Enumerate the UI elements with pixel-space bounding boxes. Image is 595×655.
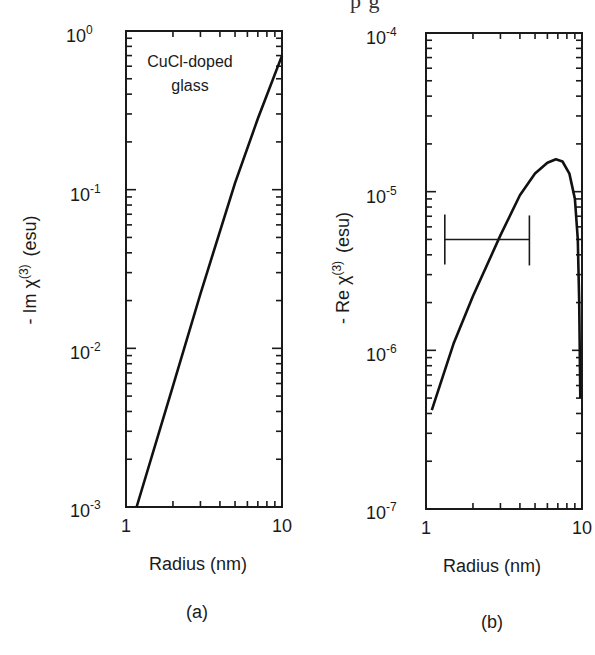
panel-b-xtick-10: 10 bbox=[572, 518, 592, 538]
panel-a-ytick-1e-2: 10-2 bbox=[70, 340, 101, 363]
figure-canvas: 100 10-1 10-2 10-3 1 10 CuCl-doped glass… bbox=[0, 0, 595, 655]
panel-b-frame bbox=[426, 33, 582, 509]
panel-b-x-axis-label: Radius (nm) bbox=[443, 556, 541, 576]
panel-a-im-chi3-curve bbox=[137, 56, 282, 507]
panel-a-caption: (a) bbox=[186, 602, 208, 622]
panel-b-ytick-1e-5: 10-5 bbox=[366, 184, 397, 207]
panel-a-xtick-10: 10 bbox=[272, 516, 292, 536]
panel-b-ytick-1e-7: 10-7 bbox=[366, 500, 397, 523]
panel-a-x-ticks bbox=[173, 31, 275, 507]
panel-a-y-axis-label: - Im χ(3)(esu) bbox=[17, 215, 40, 324]
panel-a-x-axis-label: Radius (nm) bbox=[149, 554, 247, 574]
panel-a-ytick-1e-1: 10-1 bbox=[70, 182, 101, 205]
panel-a-xtick-1: 1 bbox=[121, 516, 131, 536]
panel-a-y-ticks bbox=[126, 38, 282, 507]
panel-b-ytick-1e-6: 10-6 bbox=[366, 342, 397, 365]
panel-b-y-axis-label: - Re χ(3)(esu) bbox=[330, 212, 353, 324]
panel-b-xtick-1: 1 bbox=[421, 518, 431, 538]
panel-b-caption: (b) bbox=[481, 612, 503, 632]
panel-b: 10-4 10-5 10-6 10-7 1 10 - Re χ(3)(esu) … bbox=[330, 25, 592, 632]
panel-a-frame bbox=[126, 31, 282, 507]
panel-a-ytick-1e0: 100 bbox=[66, 23, 93, 46]
panel-b-ytick-1e-4: 10-4 bbox=[366, 25, 397, 48]
panel-b-y-ticks bbox=[426, 40, 582, 509]
panel-b-error-bar bbox=[445, 214, 530, 265]
panel-a-ytick-1e-3: 10-3 bbox=[70, 498, 101, 521]
panel-a: 100 10-1 10-2 10-3 1 10 CuCl-doped glass… bbox=[17, 23, 292, 622]
panel-b-x-ticks bbox=[473, 33, 575, 509]
panel-a-annotation-line2: glass bbox=[171, 77, 208, 94]
panel-a-annotation-line1: CuCl-doped bbox=[147, 53, 232, 70]
panel-b-re-chi3-curve bbox=[432, 159, 581, 410]
